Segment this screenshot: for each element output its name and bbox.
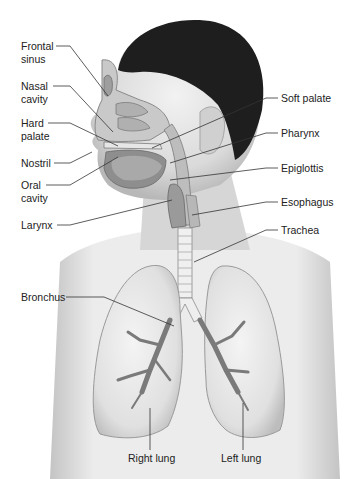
label-nostril: Nostril <box>21 157 51 170</box>
label-soft-palate: Soft palate <box>281 92 331 105</box>
label-nasal-cavity: Nasal cavity <box>21 80 48 106</box>
label-larynx: Larynx <box>21 219 53 232</box>
label-right-lung: Right lung <box>128 452 175 465</box>
label-left-lung: Left lung <box>221 452 261 465</box>
leader-nostril <box>54 152 92 163</box>
label-bronchus: Bronchus <box>21 291 65 304</box>
leader-frontal-sinus <box>56 46 108 96</box>
label-hard-palate: Hard palate <box>21 117 50 143</box>
label-trachea: Trachea <box>281 224 319 237</box>
label-frontal-sinus: Frontal sinus <box>21 40 54 66</box>
label-esophagus: Esophagus <box>281 196 334 209</box>
label-pharynx: Pharynx <box>281 127 320 140</box>
respiratory-diagram: Frontal sinus Nasal cavity Hard palate N… <box>0 0 348 479</box>
torso <box>50 228 340 479</box>
label-epiglottis: Epiglottis <box>281 162 324 175</box>
label-oral-cavity: Oral cavity <box>21 179 48 205</box>
anatomy-illustration <box>0 0 348 479</box>
